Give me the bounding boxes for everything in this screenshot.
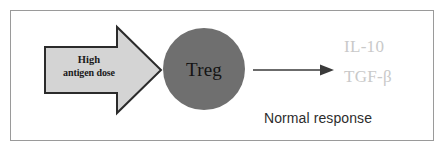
diagram-canvas: High antigen dose Treg IL-10 TGF-β Norma… — [0, 0, 446, 153]
normal-response-caption: Normal response — [264, 110, 372, 126]
treg-to-cytokines-arrow — [253, 58, 335, 82]
cytokine-output-list: IL-10 TGF-β — [344, 32, 428, 92]
high-antigen-dose-block-arrow: High antigen dose — [44, 26, 162, 114]
arrow-right-icon — [253, 58, 335, 82]
treg-cell-node: Treg — [163, 28, 245, 110]
block-arrow-label: High antigen dose — [50, 54, 128, 79]
block-arrow-label-line-1: High — [50, 54, 128, 67]
treg-cell-label: Treg — [186, 60, 222, 79]
cytokine-il10-label: IL-10 — [344, 32, 428, 62]
cytokine-tgfbeta-label: TGF-β — [344, 62, 428, 92]
block-arrow-label-line-2: antigen dose — [50, 67, 128, 80]
